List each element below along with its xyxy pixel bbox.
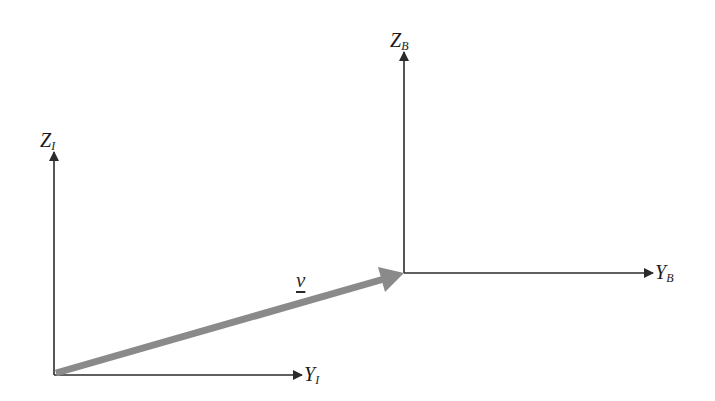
y-inertial-label: YI bbox=[304, 364, 319, 386]
z-inertial-label: ZI bbox=[40, 130, 55, 152]
frames-diagram bbox=[0, 0, 715, 401]
vector-v-label: v bbox=[296, 270, 305, 291]
z-body-label: ZB bbox=[390, 30, 408, 52]
y-body-label: YB bbox=[655, 262, 673, 284]
vector-v-arrow bbox=[56, 267, 404, 373]
